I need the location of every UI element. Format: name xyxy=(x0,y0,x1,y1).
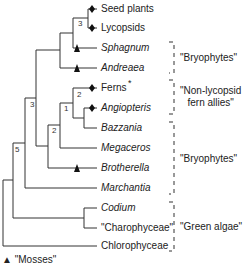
group-label-bryophytes: "Bryophytes" xyxy=(180,52,237,64)
taxon-label: Bazzania xyxy=(101,122,142,134)
taxon-label: Angiopteris xyxy=(101,102,151,114)
diamond-marker xyxy=(89,104,95,112)
triangle-icon: ▲ xyxy=(2,254,12,265)
group-label-green-algae: "Green algae" xyxy=(180,221,242,233)
legend: ▲ "Mosses" xyxy=(2,254,56,266)
support-value: 2 xyxy=(77,90,81,99)
diamond-marker xyxy=(89,5,95,13)
group-label-fern-allies: "Non-lycopsid fern allies" xyxy=(180,85,241,109)
taxon-label: Brotherella xyxy=(101,162,149,174)
diamond-marker xyxy=(89,24,95,32)
tree-branches xyxy=(3,9,97,246)
taxon-label: Chlorophyceae xyxy=(101,240,168,252)
support-value: 2 xyxy=(52,126,56,135)
group-label-bryophytes: "Bryophytes" xyxy=(180,153,237,165)
taxon-label: Ferns xyxy=(101,82,127,94)
taxon-label: Sphagnum xyxy=(101,42,149,54)
taxon-label: Lycopsids xyxy=(101,22,145,34)
group-brackets xyxy=(169,42,174,251)
support-value: 1 xyxy=(64,104,68,113)
taxon-label: Marchantia xyxy=(101,182,150,194)
taxon-label: Codium xyxy=(101,202,135,214)
superscript-asterisk: * xyxy=(128,78,132,88)
support-value: 3 xyxy=(78,19,82,28)
legend-label: "Mosses" xyxy=(15,254,57,265)
taxon-label: "Charophyceae" xyxy=(101,222,173,234)
taxon-label: Seed plants xyxy=(101,3,154,15)
support-value: 3 xyxy=(30,100,34,109)
support-value: 5 xyxy=(15,145,19,154)
taxon-label: Megaceros xyxy=(101,142,150,154)
diamond-marker xyxy=(89,84,95,92)
taxon-label: Andreaea xyxy=(101,62,144,74)
